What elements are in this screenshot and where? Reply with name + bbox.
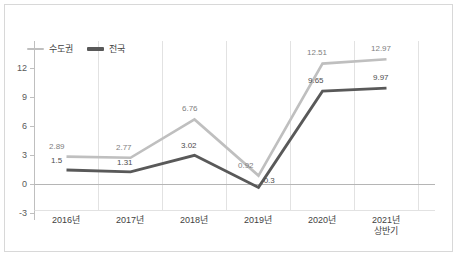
x-tick-label-2021: 2021년 상반기: [354, 215, 418, 237]
data-label-metro-2020: 12.51: [307, 49, 327, 57]
data-label-metro-2021: 12.97: [371, 45, 391, 53]
y-tick-label-neg3: -3: [5, 209, 27, 218]
data-label-national-2016: 1.5: [51, 157, 62, 165]
x-tick-label-2021-line2: 상반기: [354, 226, 418, 237]
data-label-national-2021: 9.97: [373, 74, 389, 82]
data-label-national-2020: 9.65: [308, 77, 324, 85]
data-label-metro-2017: 2.77: [116, 144, 132, 152]
legend-label-national: 전국: [109, 45, 125, 54]
data-label-national-2017: 1.31: [117, 159, 133, 167]
x-tick-label-2021-line1: 2021년: [354, 215, 418, 226]
y-axis-ticks: [30, 69, 35, 214]
y-tick-label-9: 9: [5, 93, 27, 102]
legend-entry-metro: 수도권: [27, 45, 73, 54]
data-label-metro-2019: 0.92: [238, 162, 254, 170]
y-tick-label-0: 0: [5, 180, 27, 189]
legend-entry-national: 전국: [87, 45, 125, 54]
legend-swatch-national-icon: [87, 47, 104, 51]
legend-swatch-metro-icon: [27, 48, 44, 51]
x-tick-label-2018: 2018년: [162, 215, 226, 226]
legend-label-metro: 수도권: [49, 45, 73, 54]
x-tick-label-2020: 2020년: [290, 215, 354, 226]
data-label-metro-2018: 6.76: [182, 105, 198, 113]
x-tick-label-2019: 2019년: [226, 215, 290, 226]
x-tick-label-2016: 2016년: [34, 215, 98, 226]
chart-legend: 수도권 전국: [27, 41, 125, 57]
y-tick-label-12: 12: [5, 64, 27, 73]
data-label-metro-2016: 2.89: [49, 143, 65, 151]
x-tick-label-2017: 2017년: [98, 215, 162, 226]
data-label-national-2019: -0.3: [261, 177, 275, 185]
data-label-national-2018: 3.02: [181, 142, 197, 150]
y-tick-label-3: 3: [5, 151, 27, 160]
chart-container: 수도권 전국 12 9 6 3 0 -3 2016년 2017년 2018년 2…: [4, 4, 453, 252]
y-tick-label-6: 6: [5, 122, 27, 131]
